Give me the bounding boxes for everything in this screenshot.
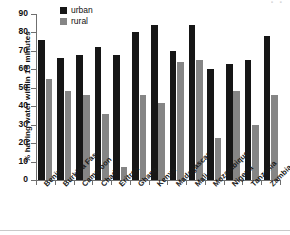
bar-group [264,14,278,180]
y-axis-tick: 80 [31,32,36,33]
page-divider-rule [0,230,290,231]
chart-legend: urban rural [60,5,93,27]
page-bleed-artifact: · · [271,0,284,5]
y-axis-tick: 30 [31,125,36,126]
bar-rural [65,91,72,180]
bar-rural [177,62,184,180]
y-axis-tick: 20 [31,143,36,144]
bar-rural [158,103,165,180]
bar-group [113,14,127,180]
bar-group [57,14,71,180]
y-axis-tick: 70 [31,51,36,52]
y-axis-tick-label: 70 [19,45,28,55]
y-axis-tick-label: 20 [19,137,28,147]
y-axis-tick-label: 90 [19,8,28,18]
bar-urban [132,32,139,180]
y-axis-tick: 90 [31,14,36,15]
legend-label-rural: rural [71,17,88,26]
x-axis-labels: BeninBurkina FasoCameroonChadEritreaGhan… [36,182,288,234]
bar-rural [46,79,53,180]
bar-group [151,14,165,180]
y-axis-tick-label: 10 [19,156,28,166]
bar-urban [151,25,158,180]
y-axis-tick-label: 40 [19,100,28,110]
y-axis-tick: 40 [31,106,36,107]
y-axis-tick-label: 0 [23,174,28,184]
y-axis-tick-label: 30 [19,119,28,129]
legend-item-urban: urban [60,5,93,15]
legend-swatch-icon-urban [60,7,67,14]
bar-group [38,14,52,180]
bar-urban [170,51,177,180]
bar-group [132,14,146,180]
y-axis-tick-label: 60 [19,63,28,73]
y-axis-tick-label: 50 [19,82,28,92]
bar-urban [189,25,196,180]
legend-item-rural: rural [60,16,93,26]
bar-urban [113,55,120,180]
bar-urban [57,58,64,180]
chart-figure: · · % having water within 15 minutes 010… [0,0,290,235]
legend-swatch-icon-rural [60,18,67,25]
y-axis-tick: 50 [31,88,36,89]
bar-urban [38,40,45,180]
bar-urban [207,69,214,180]
bar-rural [140,95,147,180]
y-axis-tick-label: 80 [19,26,28,36]
bar-urban [264,36,271,180]
y-axis-tick: 10 [31,162,36,163]
y-axis-line [36,14,37,181]
legend-label-urban: urban [71,6,93,15]
y-axis-tick: 60 [31,69,36,70]
bar-group [170,14,184,180]
